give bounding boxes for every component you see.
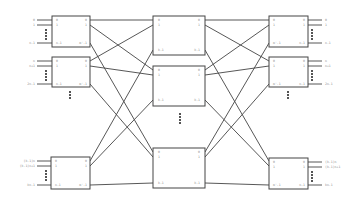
ellipsis-icon xyxy=(69,91,71,99)
ellipsis-icon xyxy=(45,29,47,40)
port-label: n-1 xyxy=(56,41,62,45)
port-label: 1 xyxy=(303,23,305,27)
output-switch-1: 0 1 m'-1 0 1 n-1 0 1 n-1 xyxy=(269,16,331,47)
clos-network-diagram: 0 1 n-1 0 1 n-1 0 1 m'-1 n n+1 2n-1 0 1 … xyxy=(0,0,362,200)
port-label: 1 xyxy=(85,23,87,27)
output-label: n-1 xyxy=(325,41,331,45)
port-label: k-1 xyxy=(194,98,200,102)
ellipsis-icon xyxy=(311,29,313,40)
port-label: 1 xyxy=(198,23,200,27)
output-label: n xyxy=(325,59,327,63)
port-label: n-1 xyxy=(299,183,305,187)
port-label: n-1 xyxy=(299,41,305,45)
ellipsis-icon xyxy=(287,91,289,99)
port-label: 0 xyxy=(56,18,58,22)
port-label: 0 xyxy=(303,59,305,63)
output-label: (k-1)n+1 xyxy=(325,165,340,169)
port-label: 1 xyxy=(198,73,200,77)
input-label: 2n-1 xyxy=(27,82,35,86)
port-label: k-1 xyxy=(158,98,164,102)
ellipsis-icon xyxy=(45,170,47,181)
wires-stage1-to-stage2 xyxy=(90,20,153,185)
port-label: 0 xyxy=(158,150,160,154)
output-switch-2: 0 1 m'-1 0 1 n-1 n n+1 2n-1 xyxy=(269,57,333,87)
port-label: 1 xyxy=(273,165,275,169)
port-label: k-1 xyxy=(194,181,200,185)
port-label: 0 xyxy=(273,59,275,63)
ellipsis-icon xyxy=(311,171,313,182)
port-label: 0 xyxy=(303,160,305,164)
input-label: n-1 xyxy=(29,41,35,45)
port-label: n-1 xyxy=(56,82,62,86)
input-label: 0 xyxy=(33,18,35,22)
port-label: 1 xyxy=(198,155,200,159)
input-label: n+1 xyxy=(29,64,35,68)
port-label: 1 xyxy=(85,64,87,68)
port-label: 1 xyxy=(303,64,305,68)
middle-switch-m: 0 1 k-1 0 1 k-1 xyxy=(153,148,205,188)
port-label: n-1 xyxy=(299,82,305,86)
input-switch-2: n n+1 2n-1 0 1 n-1 0 1 m'-1 xyxy=(27,57,90,87)
port-label: 0 xyxy=(55,159,57,163)
output-label: 0 xyxy=(325,18,327,22)
port-label: m'-1 xyxy=(79,183,87,187)
output-label: 2n-1 xyxy=(325,82,333,86)
ellipsis-icon xyxy=(179,113,181,124)
output-label: kn-1 xyxy=(325,183,333,187)
port-label: 1 xyxy=(158,73,160,77)
port-label: 1 xyxy=(273,64,275,68)
port-label: m'-1 xyxy=(273,183,281,187)
output-label: 1 xyxy=(325,23,327,27)
port-label: 0 xyxy=(85,18,87,22)
middle-switch-1: 0 1 k-1 0 1 k-1 xyxy=(153,16,205,55)
port-label: 0 xyxy=(273,160,275,164)
port-label: 0 xyxy=(158,68,160,72)
port-label: 1 xyxy=(158,23,160,27)
port-label: 0 xyxy=(85,59,87,63)
port-label: 1 xyxy=(158,155,160,159)
port-label: 0 xyxy=(56,59,58,63)
port-label: n-1 xyxy=(55,183,61,187)
port-label: 0 xyxy=(273,18,275,22)
port-label: m'-1 xyxy=(79,82,87,86)
port-label: 1 xyxy=(303,165,305,169)
port-label: k-1 xyxy=(158,48,164,52)
wires-stage2-to-stage3 xyxy=(205,20,269,185)
port-label: 1 xyxy=(56,23,58,27)
input-label: (k-1)n xyxy=(23,159,35,163)
input-switch-k: (k-1)n (k-1)n+1 kn-1 0 1 n-1 0 1 m'-1 xyxy=(20,157,90,189)
port-label: m'-1 xyxy=(79,41,87,45)
input-switch-1: 0 1 n-1 0 1 n-1 0 1 m'-1 xyxy=(29,16,90,47)
port-label: k-1 xyxy=(194,48,200,52)
port-label: 0 xyxy=(198,68,200,72)
port-label: 0 xyxy=(85,159,87,163)
input-label: kn-1 xyxy=(27,183,35,187)
port-label: 0 xyxy=(198,150,200,154)
port-label: k-1 xyxy=(158,181,164,185)
input-label: n xyxy=(33,59,35,63)
port-label: 1 xyxy=(56,64,58,68)
port-label: 0 xyxy=(198,18,200,22)
input-label: 1 xyxy=(33,23,35,27)
output-label: n+1 xyxy=(325,64,331,68)
ellipsis-icon xyxy=(311,70,313,81)
output-switch-k: 0 1 m'-1 0 1 n-1 (k-1)n (k-1)n+1 kn-1 xyxy=(269,158,340,189)
port-label: 1 xyxy=(55,164,57,168)
port-label: 0 xyxy=(158,18,160,22)
output-label: (k-1)n xyxy=(325,160,337,164)
ellipsis-icon xyxy=(45,70,47,81)
port-label: m'-1 xyxy=(273,41,281,45)
middle-switch-2: 0 1 k-1 0 1 k-1 xyxy=(153,66,205,106)
input-label: (k-1)n+1 xyxy=(20,164,35,168)
port-label: 1 xyxy=(273,23,275,27)
port-label: 0 xyxy=(303,18,305,22)
port-label: m'-1 xyxy=(273,82,281,86)
port-label: 1 xyxy=(85,164,87,168)
